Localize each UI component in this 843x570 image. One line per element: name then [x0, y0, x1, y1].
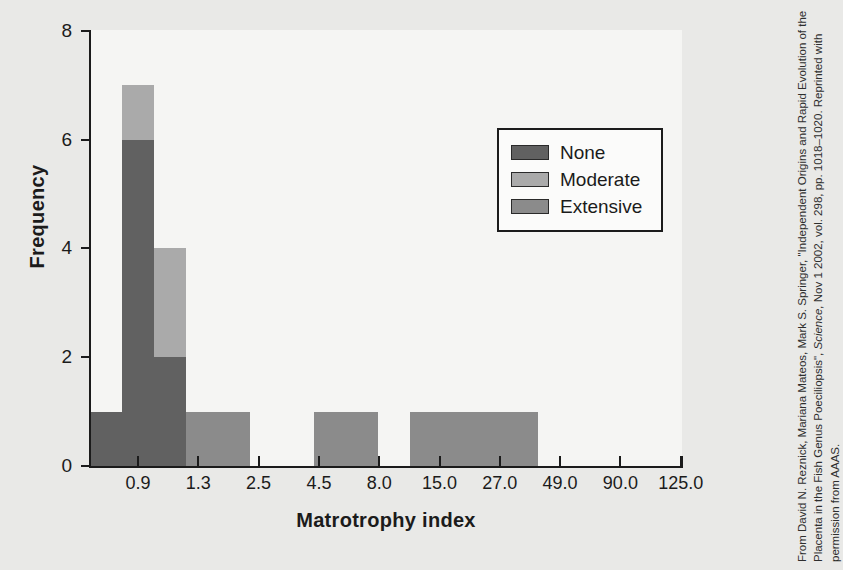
legend-item: None	[511, 139, 649, 166]
x-axis-line	[89, 466, 683, 468]
y-tick-label-8: 8	[22, 21, 72, 40]
bar-segment	[442, 412, 474, 466]
bar-segment	[346, 412, 378, 466]
source-credit: From David N. Reznick, Mariana Mateos, M…	[690, 0, 802, 570]
y-tick-label-0: 0	[22, 456, 72, 475]
x-tick-6	[499, 456, 501, 467]
x-tick-1	[197, 456, 199, 467]
legend-swatch-none	[511, 145, 549, 160]
bar-segment	[186, 412, 218, 466]
bar-segment	[122, 85, 154, 139]
bar-segment	[154, 248, 186, 357]
legend-label-extensive: Extensive	[560, 197, 642, 216]
bar-segment	[474, 412, 506, 466]
bar-segment	[154, 357, 186, 466]
x-tick-0	[137, 456, 139, 467]
y-tick-8	[81, 30, 90, 32]
legend-item: Extensive	[511, 193, 649, 220]
x-tick-7	[559, 456, 561, 467]
y-tick-4	[81, 247, 90, 249]
x-tick-8	[619, 456, 621, 467]
legend-swatch-extensive	[511, 199, 549, 214]
x-tick-5	[439, 456, 441, 467]
bar-segment	[218, 412, 250, 466]
bar-segment	[122, 140, 154, 466]
x-axis-title: Matrotrophy index	[90, 509, 682, 532]
bar-segment	[90, 412, 122, 466]
x-tick-2	[258, 456, 260, 467]
y-tick-2	[81, 356, 90, 358]
legend: None Moderate Extensive	[497, 128, 663, 232]
y-tick-0	[81, 465, 90, 467]
y-tick-6	[81, 139, 90, 141]
y-tick-label-2: 2	[22, 347, 72, 366]
bar-segment	[506, 412, 538, 466]
legend-label-none: None	[560, 143, 605, 162]
x-tick-3	[318, 456, 320, 467]
legend-label-moderate: Moderate	[560, 170, 640, 189]
legend-item: Moderate	[511, 166, 649, 193]
y-axis-title: Frequency	[26, 102, 49, 332]
x-tick-4	[378, 456, 380, 467]
bar-segment	[410, 412, 442, 466]
legend-swatch-moderate	[511, 172, 549, 187]
source-credit-text: From David N. Reznick, Mariana Mateos, M…	[794, 6, 843, 562]
x-tick-9	[680, 456, 682, 467]
